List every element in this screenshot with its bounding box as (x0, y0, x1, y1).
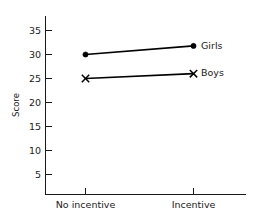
y-tick-label-35: 35 (29, 25, 41, 36)
series-girls-line (86, 46, 194, 55)
series-girls-point-no-incentive (83, 52, 88, 57)
series-boys-line (86, 74, 194, 79)
y-tick-label-15: 15 (29, 121, 41, 132)
y-tick-label-20: 20 (29, 97, 41, 108)
y-tick-label-5: 5 (35, 169, 41, 180)
y-tick-label-30: 30 (29, 49, 41, 60)
x-tick-label-no-incentive: No incentive (56, 199, 116, 210)
series-boys (82, 70, 197, 82)
series-girls (83, 43, 196, 57)
chart-canvas: 35 30 25 20 15 10 5 Score No incentive I… (0, 0, 258, 218)
legend-label-boys: Boys (201, 67, 224, 78)
x-tick-label-incentive: Incentive (172, 199, 216, 210)
legend-label-girls: Girls (201, 40, 223, 51)
x-tick-marks (86, 188, 194, 195)
y-tick-label-10: 10 (29, 145, 41, 156)
line-chart: 35 30 25 20 15 10 5 Score No incentive I… (0, 0, 258, 218)
series-girls-point-incentive (191, 43, 196, 48)
y-tick-label-25: 25 (29, 73, 41, 84)
y-axis-title: Score (11, 93, 21, 117)
x-tick-labels: No incentive Incentive (56, 199, 216, 210)
legend: Girls Boys (201, 40, 224, 78)
y-tick-marks (46, 31, 53, 175)
y-tick-labels: 35 30 25 20 15 10 5 (29, 25, 41, 180)
